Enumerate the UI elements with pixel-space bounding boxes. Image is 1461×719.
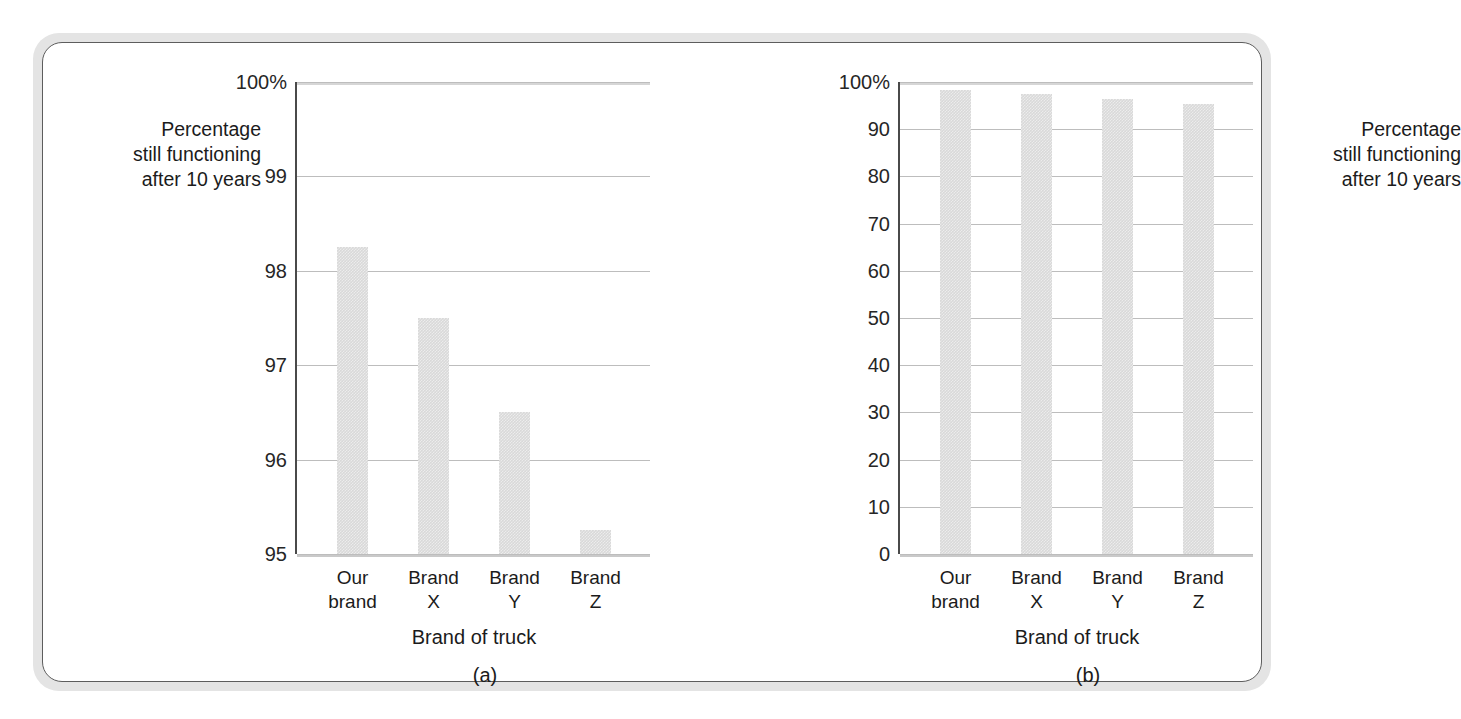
x-tick-a-brand-y: Brand Y [489,566,540,614]
bar-b-brand-x [1021,94,1052,554]
x-tick-b-brand-z: Brand Z [1173,566,1224,614]
y-tick-b-20: 20 [868,448,890,471]
x-tick-a-brand-x: Brand X [408,566,459,614]
y-tick-a-100: 100% [236,71,287,94]
x-tick-a-brand-y-line-1: Brand [489,566,540,590]
y-axis-label-b-line-3: after 10 years [1261,167,1461,192]
x-tick-b-brand-x-line-2: X [1011,590,1062,614]
gridline-a-100: 100% [297,82,650,83]
plot-area-a: 95 96 97 98 99 100% [295,82,650,554]
y-axis-label-b: Percentage still functioning after 10 ye… [1261,117,1461,192]
plot-area-b: 0 10 20 30 40 50 60 [898,82,1253,554]
x-tick-a-our-brand-line-2: brand [328,590,377,614]
x-tick-a-brand-x-line-1: Brand [408,566,459,590]
x-tick-a-brand-z-line-1: Brand [570,566,621,590]
y-tick-b-10: 10 [868,495,890,518]
gridline-a-99: 99 [297,176,650,177]
gridline-a-95: 95 [297,554,650,555]
x-tick-a-brand-z-line-2: Z [570,590,621,614]
y-tick-b-70: 70 [868,212,890,235]
x-tick-b-our-brand-line-1: Our [931,566,980,590]
y-tick-b-30: 30 [868,401,890,424]
figure-frame: Percentage still functioning after 10 ye… [33,33,1271,691]
x-tick-b-brand-x: Brand X [1011,566,1062,614]
bar-b-brand-y [1102,99,1133,555]
bar-b-our-brand [940,90,971,554]
x-tick-b-brand-z-line-1: Brand [1173,566,1224,590]
bar-a-our-brand [337,247,368,554]
x-axis-title-b: Brand of truck [1015,626,1140,649]
x-tick-a-our-brand: Our brand [328,566,377,614]
panel-caption-a: (a) [473,664,497,687]
bar-a-brand-z [580,530,611,554]
y-tick-b-100: 100% [839,71,890,94]
x-tick-b-brand-y-line-1: Brand [1092,566,1143,590]
y-tick-a-95: 95 [265,543,287,566]
x-tick-b-brand-y-line-2: Y [1092,590,1143,614]
x-tick-b-brand-x-line-1: Brand [1011,566,1062,590]
y-tick-a-96: 96 [265,448,287,471]
chart-panel-b: Percentage still functioning after 10 ye… [691,43,1281,681]
x-tick-a-brand-x-line-2: X [408,590,459,614]
x-tick-b-brand-z-line-2: Z [1173,590,1224,614]
chart-panel-a: Percentage still functioning after 10 ye… [43,43,691,681]
y-axis-label-b-line-1: Percentage [1261,117,1461,142]
x-tick-b-brand-y: Brand Y [1092,566,1143,614]
x-tick-b-our-brand-line-2: brand [931,590,980,614]
y-axis-label-a-line-3: after 10 years [61,167,261,192]
y-tick-b-60: 60 [868,259,890,282]
y-tick-a-97: 97 [265,354,287,377]
y-tick-b-50: 50 [868,307,890,330]
y-axis-label-a-line-1: Percentage [61,117,261,142]
y-tick-a-98: 98 [265,259,287,282]
gridline-b-0: 0 [900,554,1253,555]
bar-a-brand-y [499,412,530,554]
bar-b-brand-z [1183,104,1214,554]
y-axis-label-b-line-2: still functioning [1261,142,1461,167]
x-axis-title-a: Brand of truck [412,626,537,649]
bar-a-brand-x [418,318,449,554]
x-tick-a-brand-y-line-2: Y [489,590,540,614]
y-tick-b-80: 80 [868,165,890,188]
y-tick-b-0: 0 [879,543,890,566]
y-tick-a-99: 99 [265,165,287,188]
figure-inner-panel: Percentage still functioning after 10 ye… [42,42,1262,682]
y-tick-b-40: 40 [868,354,890,377]
y-axis-label-a: Percentage still functioning after 10 ye… [61,117,261,192]
y-tick-b-90: 90 [868,118,890,141]
x-tick-b-our-brand: Our brand [931,566,980,614]
x-tick-a-our-brand-line-1: Our [328,566,377,590]
gridline-b-100: 100% [900,82,1253,83]
x-tick-a-brand-z: Brand Z [570,566,621,614]
panel-caption-b: (b) [1076,664,1100,687]
y-axis-label-a-line-2: still functioning [61,142,261,167]
